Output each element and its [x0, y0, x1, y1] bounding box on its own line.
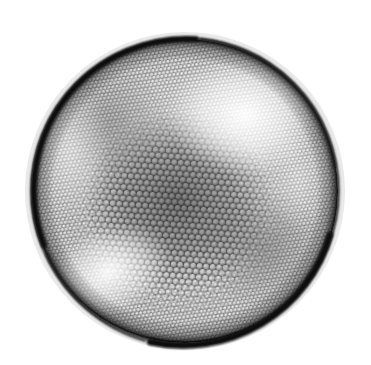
bowl-illustration-svg: Hammered silver metal bowl, top-down vie…	[0, 0, 371, 365]
hammered-bowl-product-image: Hammered silver metal bowl, top-down vie…	[0, 0, 371, 365]
product-photo-stage: Hammered silver metal bowl, top-down vie…	[0, 0, 371, 365]
